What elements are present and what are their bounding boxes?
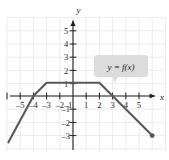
x-tick-label: –3	[41, 100, 51, 110]
y-tick-label: 5	[64, 26, 68, 36]
x-tick-label: –5	[15, 100, 25, 110]
y-axis-label: y	[76, 5, 81, 15]
x-tick-label: 5	[137, 100, 141, 110]
x-tick-label: 3	[110, 100, 114, 110]
y-tick-label: –3	[60, 131, 70, 141]
callout-label: y = f(x)	[106, 62, 134, 72]
y-tick-label: 3	[64, 52, 68, 62]
curve-right-endpoint	[150, 133, 155, 138]
y-tick-label: –1	[60, 104, 70, 114]
function-graph-figure: –5 –4 –3 –2 –1 1 2 3 4 5 5 4 3 2 1 –1 –2…	[0, 0, 169, 160]
x-axis-label: x	[159, 92, 164, 102]
y-tick-label: 2	[64, 66, 68, 76]
y-tick-label: 4	[64, 39, 69, 49]
y-tick-label: –2	[60, 118, 70, 128]
x-tick-label: 1	[84, 100, 88, 110]
x-tick-label: 2	[97, 100, 101, 110]
